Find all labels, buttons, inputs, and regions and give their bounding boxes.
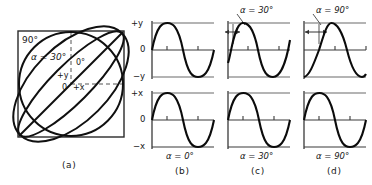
row-bot-min-label: −x: [133, 142, 145, 151]
panel-a-caption: (a): [62, 161, 76, 170]
panel-a-y-label: +y: [57, 72, 68, 80]
panel-c-alpha-label: α = 30°: [240, 152, 273, 161]
row-bot-zero-label: 0: [140, 115, 145, 124]
panel-a-line-label: 0°: [76, 59, 85, 67]
row-top-max-label: +y: [131, 19, 143, 28]
panel-d-caption: (d): [327, 167, 342, 176]
panel-d-alpha-label: α = 90°: [316, 152, 349, 161]
panel-d-phase-arrowhead-left: [305, 30, 309, 34]
row-top-min-label: −y: [133, 72, 145, 81]
panel-a-circle-label: 90°: [22, 36, 38, 45]
panel-c-marker-label: α = 30°: [240, 6, 273, 15]
panel-b-caption: (b): [175, 167, 190, 176]
panel-a-origin-label: 0: [62, 84, 67, 92]
panel-b-alpha-label: α = 0°: [166, 152, 194, 161]
panel-b-graphics: [152, 21, 214, 149]
row-top-zero-label: 0: [140, 45, 145, 54]
wave-panels-graphics: [152, 14, 366, 149]
panel-d-graphics: [304, 14, 366, 149]
row-bot-max-label: +x: [131, 89, 143, 98]
panel-d-marker-label: α = 90°: [316, 6, 349, 15]
panel-a-ellipse-label: α = 30°: [31, 53, 66, 62]
panel-c-graphics: [225, 14, 290, 149]
panel-c-phase-arrowhead-left: [225, 30, 229, 34]
panel-c-caption: (c): [251, 167, 265, 176]
panel-a-x-label: +x: [73, 84, 84, 92]
figure-root: 90° α = 30° 0° +y 0 +x (a) +y 0 −y +x 0 …: [0, 0, 372, 185]
